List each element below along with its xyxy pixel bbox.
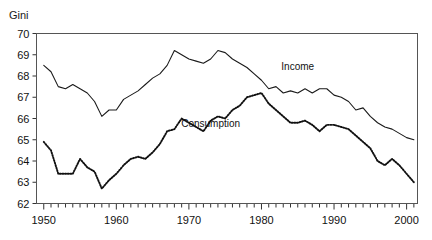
y-tick-label: 68 bbox=[17, 70, 29, 82]
series-inline-label: Income bbox=[281, 61, 314, 72]
y-tick-label: 65 bbox=[17, 134, 29, 146]
y-tick-label: 64 bbox=[17, 155, 29, 167]
y-tick-label: 62 bbox=[17, 198, 29, 210]
x-tick-label: 1970 bbox=[177, 214, 201, 226]
y-axis-tick-group: 626364656667686970 bbox=[17, 28, 36, 210]
series-inline-label: Consumption bbox=[181, 118, 240, 129]
series-line-consumption bbox=[44, 93, 414, 189]
y-tick-label: 70 bbox=[17, 28, 29, 40]
y-tick-label: 66 bbox=[17, 113, 29, 125]
x-tick-label: 1980 bbox=[249, 214, 273, 226]
x-tick-label: 1950 bbox=[32, 214, 56, 226]
x-tick-label: 2000 bbox=[394, 214, 418, 226]
x-axis-tick-group: 195019601970198019902000 bbox=[32, 204, 419, 226]
y-tick-label: 63 bbox=[17, 176, 29, 188]
y-tick-label: 67 bbox=[17, 91, 29, 103]
gini-chart-figure: Gini 626364656667686970 1950196019701980… bbox=[0, 0, 432, 240]
series-inline-labels: IncomeConsumption bbox=[181, 61, 314, 129]
x-tick-label: 1960 bbox=[104, 214, 128, 226]
x-tick-label: 1990 bbox=[322, 214, 346, 226]
chart-plot-area: 626364656667686970 195019601970198019902… bbox=[0, 0, 432, 240]
y-tick-label: 69 bbox=[17, 49, 29, 61]
